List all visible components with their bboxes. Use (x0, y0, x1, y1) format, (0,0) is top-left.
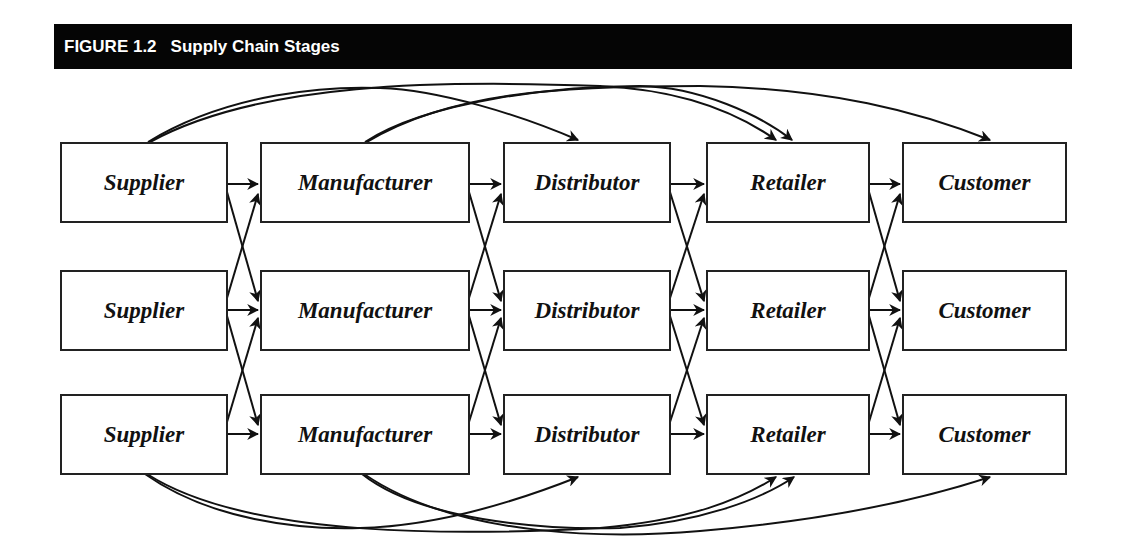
node-label: Manufacturer (298, 298, 432, 324)
node-label: Supplier (104, 170, 185, 196)
node-label: Manufacturer (298, 422, 432, 448)
customer-box-row3: Customer (902, 394, 1067, 475)
node-label: Manufacturer (298, 170, 432, 196)
retailer-box-row2: Retailer (706, 270, 870, 351)
supplier-box-row2: Supplier (60, 270, 228, 351)
node-label: Supplier (104, 298, 185, 324)
manufacturer-box-row3: Manufacturer (260, 394, 470, 475)
customer-box-row1: Customer (902, 142, 1067, 223)
manufacturer-box-row2: Manufacturer (260, 270, 470, 351)
node-label: Retailer (750, 170, 825, 196)
node-label: Retailer (750, 422, 825, 448)
node-label: Retailer (750, 298, 825, 324)
node-label: Customer (938, 422, 1030, 448)
retailer-box-row1: Retailer (706, 142, 870, 223)
node-label: Supplier (104, 422, 185, 448)
supplier-box-row3: Supplier (60, 394, 228, 475)
distributor-box-row1: Distributor (503, 142, 671, 223)
node-label: Distributor (535, 298, 640, 324)
node-label: Distributor (535, 170, 640, 196)
distributor-box-row3: Distributor (503, 394, 671, 475)
supplier-box-row1: Supplier (60, 142, 228, 223)
node-label: Customer (938, 298, 1030, 324)
manufacturer-box-row1: Manufacturer (260, 142, 470, 223)
node-label: Customer (938, 170, 1030, 196)
node-label: Distributor (535, 422, 640, 448)
retailer-box-row3: Retailer (706, 394, 870, 475)
customer-box-row2: Customer (902, 270, 1067, 351)
distributor-box-row2: Distributor (503, 270, 671, 351)
